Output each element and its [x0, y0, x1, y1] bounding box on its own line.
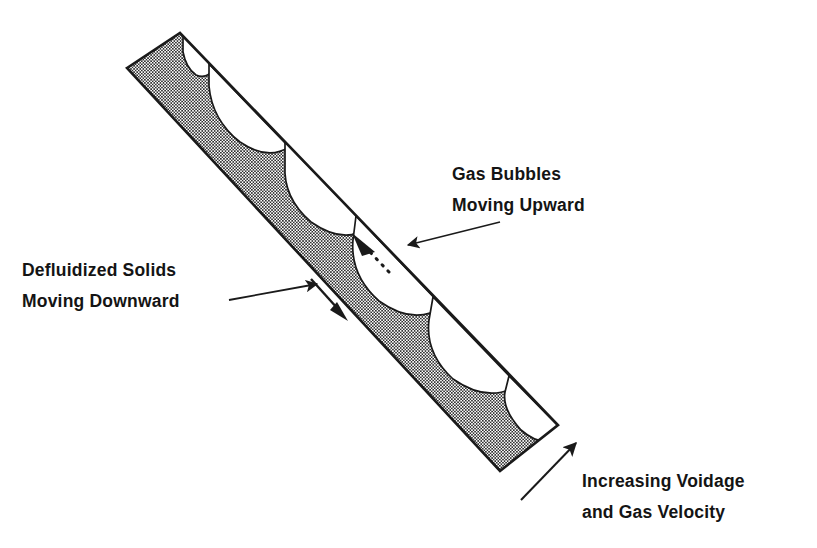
increasing-voidage-label-line1: Increasing Voidage: [582, 471, 745, 491]
gas-bubbles-label-line1: Gas Bubbles: [452, 164, 561, 184]
defluidized-solids-label-line2: Moving Downward: [22, 291, 180, 311]
increasing-voidage-pointer-arrow: [521, 443, 576, 500]
defluidized-solids-pointer-arrow: [229, 284, 317, 300]
column-solids-fill: [127, 33, 558, 471]
gas-bubbles-label: Gas Bubbles Moving Upward: [452, 164, 585, 215]
inclined-fluidized-bed-diagram: Gas Bubbles Moving Upward Defluidized So…: [0, 0, 817, 548]
gas-bubbles-pointer-arrow: [408, 222, 500, 245]
increasing-voidage-label: Increasing Voidage and Gas Velocity: [582, 471, 745, 522]
column-group: [127, 33, 566, 471]
diagram-canvas: Gas Bubbles Moving Upward Defluidized So…: [0, 0, 817, 548]
defluidized-solids-label: Defluidized Solids Moving Downward: [22, 260, 180, 311]
gas-bubbles-label-line2: Moving Upward: [452, 195, 585, 215]
increasing-voidage-label-line2: and Gas Velocity: [582, 502, 725, 522]
defluidized-solids-label-line1: Defluidized Solids: [22, 260, 176, 280]
